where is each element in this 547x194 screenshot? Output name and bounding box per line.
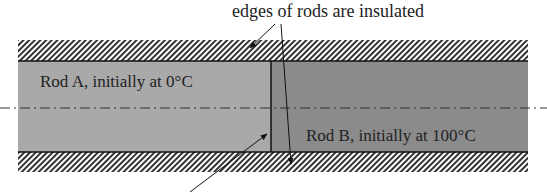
insulated-label: edges of rods are insulated [232,2,424,20]
bottom-insulation [18,152,528,172]
rod-a-label: Rod A, initially at 0°C [40,73,193,90]
rod-b-label: Rod B, initially at 100°C [306,127,476,144]
top-insulation [18,40,528,61]
rod-diagram [0,0,547,194]
